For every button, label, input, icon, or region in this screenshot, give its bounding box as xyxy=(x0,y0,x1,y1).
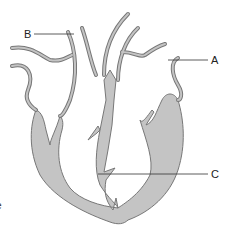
heart-diagram xyxy=(0,0,225,228)
label-a: A xyxy=(211,55,218,66)
cropped-text: e xyxy=(0,200,2,211)
label-c: C xyxy=(211,169,219,180)
ventricle-body xyxy=(31,70,183,224)
label-b: B xyxy=(24,29,31,40)
